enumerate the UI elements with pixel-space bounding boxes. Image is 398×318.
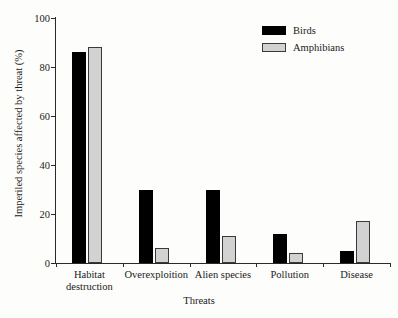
y-axis-tick [51,214,56,215]
y-axis-tick [51,67,56,68]
bar-amphibians-3 [289,253,303,263]
x-axis-category-label: Overexploition [123,269,190,281]
y-axis-tick [51,116,56,117]
y-axis-tick-label: 0 [45,258,50,269]
x-axis-tick [190,263,191,267]
legend-swatch-amphibians-icon [262,43,286,52]
x-axis-line [55,263,391,264]
category-label-line1: Habitat [74,269,105,280]
x-axis-category-label: Disease [323,269,390,281]
bar-birds-4 [340,251,354,263]
legend-label-birds: Birds [293,25,316,36]
legend-label-amphibians: Amphibians [293,42,344,53]
bar-amphibians-4 [356,221,370,263]
legend-swatch-birds-icon [262,26,286,35]
category-label-line1: Disease [340,269,373,280]
bar-amphibians-1 [155,248,169,263]
x-axis-tick [256,263,257,267]
x-axis-category-label: Habitatdestruction [56,269,123,292]
legend-item-amphibians: Amphibians [262,40,344,54]
x-axis-category-label: Alien species [190,269,257,281]
y-axis-tick-label: 20 [40,209,51,220]
x-axis-tick [123,263,124,267]
bar-chart-figure: 020406080100 Imperiled species affected … [0,0,398,318]
category-label-line2: destruction [56,281,123,293]
chart-legend: Birds Amphibians [262,23,344,57]
x-axis-tick [323,263,324,267]
bar-birds-1 [139,190,153,264]
x-axis-tick [390,263,391,267]
x-axis-title: Threats [0,295,398,306]
bar-birds-0 [72,52,86,263]
bar-birds-3 [273,234,287,263]
bar-amphibians-0 [88,47,102,263]
category-label-line1: Pollution [271,269,310,280]
category-label-line1: Overexploition [124,269,188,280]
bar-amphibians-2 [222,236,236,263]
bar-birds-2 [206,190,220,264]
y-axis-tick-label: 40 [40,160,51,171]
y-axis-tick [51,18,56,19]
x-axis-tick [56,263,57,267]
y-axis-tick [51,165,56,166]
y-axis-title: Imperiled species affected by threat (%) [13,20,24,248]
y-axis-tick-label: 100 [34,13,50,24]
y-axis-tick-label: 60 [40,111,51,122]
category-label-line1: Alien species [195,269,251,280]
legend-item-birds: Birds [262,23,344,37]
x-axis-category-label: Pollution [256,269,323,281]
y-axis-tick-label: 80 [40,62,51,73]
